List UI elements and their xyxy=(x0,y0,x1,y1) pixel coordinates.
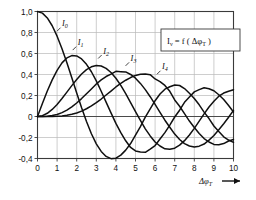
annotation-leader xyxy=(157,71,161,75)
y-tick-label: 0,4 xyxy=(21,71,33,80)
x-tick-label: 6 xyxy=(153,164,158,173)
y-tick-label: 0 xyxy=(28,113,33,122)
x-tick-label: 1 xyxy=(55,164,60,173)
y-axis-tick-labels: 1,00,80,60,40,20-0,2-0,4 xyxy=(18,8,33,164)
y-tick-label: 1,0 xyxy=(21,8,33,17)
annotation-leader xyxy=(73,47,77,51)
x-axis-tick-labels: 012345678910 xyxy=(35,164,238,173)
curve-label-i-1: I1 xyxy=(77,38,84,48)
legend-box: Iν = f ( ΔφT ) xyxy=(161,29,240,51)
annotation-leader xyxy=(57,28,61,32)
x-tick-label: 3 xyxy=(94,164,99,173)
y-tick-label: 0,2 xyxy=(21,92,33,101)
annotation-leader xyxy=(98,55,102,59)
x-tick-label: 7 xyxy=(172,164,177,173)
curve-label-i-0: I0 xyxy=(61,19,68,29)
y-tick-label: 0,8 xyxy=(21,29,33,38)
x-axis-title-text: ΔφT xyxy=(198,176,213,187)
y-tick-label: -0,2 xyxy=(18,134,33,143)
chart-canvas: 1,00,80,60,40,20-0,2-0,4 012345678910 I0… xyxy=(0,0,256,200)
x-tick-label: 5 xyxy=(133,164,138,173)
y-tick-label: 0,6 xyxy=(21,50,33,59)
curve-annotations: I0I1I2I3I4 xyxy=(57,19,168,74)
curve-label-i-4: I4 xyxy=(161,62,168,72)
annotation-leader xyxy=(126,62,130,66)
curve-label-i-2: I2 xyxy=(102,47,109,57)
x-axis-title: ΔφT xyxy=(198,176,240,187)
y-tick-label: -0,4 xyxy=(18,155,33,164)
bessel-function-chart: 1,00,80,60,40,20-0,2-0,4 012345678910 I0… xyxy=(0,0,256,200)
x-tick-label: 2 xyxy=(74,164,79,173)
x-tick-label: 9 xyxy=(212,164,217,173)
x-axis-arrow-icon xyxy=(222,178,240,184)
x-tick-label: 0 xyxy=(35,164,40,173)
x-tick-label: 10 xyxy=(229,164,239,173)
x-tick-label: 8 xyxy=(192,164,197,173)
x-tick-label: 4 xyxy=(114,164,119,173)
